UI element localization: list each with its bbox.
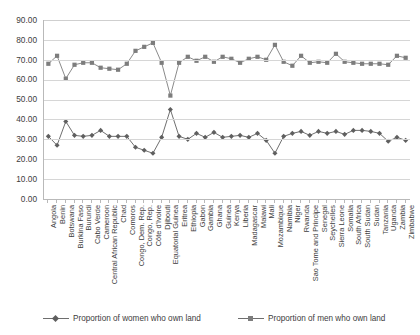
data-point[interactable] <box>333 129 338 134</box>
x-axis-tick <box>47 200 48 203</box>
data-point[interactable] <box>81 61 85 65</box>
y-axis-tick-label: 80.00 <box>16 36 37 44</box>
x-axis-tick-label: Tanzania <box>382 205 389 235</box>
data-point[interactable] <box>203 55 207 59</box>
x-axis-tick-label: Liberia <box>242 205 249 227</box>
x-axis-tick-label: Malawi <box>260 205 267 228</box>
data-point[interactable] <box>386 63 390 67</box>
data-point[interactable] <box>168 107 173 112</box>
data-point[interactable] <box>368 129 373 134</box>
x-axis-tick-label: Guinea <box>225 205 232 229</box>
x-axis-tick-label: Zambia <box>399 205 406 230</box>
x-axis-tick <box>257 200 258 203</box>
data-point[interactable] <box>299 129 304 134</box>
data-point[interactable] <box>72 63 76 67</box>
data-point[interactable] <box>194 131 199 136</box>
data-point[interactable] <box>221 55 225 59</box>
data-point[interactable] <box>211 130 216 135</box>
x-axis-tick-label: South Africa <box>355 205 362 245</box>
data-point[interactable] <box>238 133 243 138</box>
x-axis-tick <box>222 200 223 203</box>
data-point[interactable] <box>142 45 146 49</box>
x-axis-tick <box>239 200 240 203</box>
data-point[interactable] <box>395 54 399 58</box>
data-point[interactable] <box>316 129 321 134</box>
x-axis-tick-label: Mali <box>268 205 275 219</box>
data-point[interactable] <box>116 68 120 72</box>
data-point[interactable] <box>307 133 312 138</box>
x-axis-tick <box>370 200 371 203</box>
data-point[interactable] <box>334 52 338 56</box>
data-point[interactable] <box>351 128 356 133</box>
x-axis-tick-label: Senegal <box>321 205 328 232</box>
x-axis-tick-label: Sao Tome and Principe <box>312 205 319 281</box>
data-point[interactable] <box>99 66 103 70</box>
data-point[interactable] <box>107 134 112 139</box>
x-axis-tick <box>318 200 319 203</box>
gridline <box>44 100 410 101</box>
data-point[interactable] <box>177 61 181 65</box>
x-axis-tick <box>387 200 388 203</box>
legend-item-men[interactable]: Proportion of men who own land <box>238 314 385 323</box>
x-axis-tick <box>196 200 197 203</box>
data-point[interactable] <box>160 61 164 65</box>
data-point[interactable] <box>325 131 330 136</box>
gridline <box>44 119 410 120</box>
data-point[interactable] <box>342 132 347 137</box>
data-point[interactable] <box>255 55 259 59</box>
x-axis-tick <box>274 200 275 203</box>
legend-item-women[interactable]: Proportion of women who own land <box>43 314 201 323</box>
data-point[interactable] <box>273 43 277 47</box>
chart-container: 0.0010.0020.0030.0040.0050.0060.0070.008… <box>0 0 420 335</box>
data-point[interactable] <box>281 134 286 139</box>
x-axis-tick <box>326 200 327 203</box>
gridline <box>44 80 410 81</box>
x-axis-tick-label: Zimbabwe <box>408 205 415 239</box>
x-axis-tick <box>396 200 397 203</box>
data-point[interactable] <box>72 133 77 138</box>
data-point[interactable] <box>308 61 312 65</box>
data-point[interactable] <box>46 62 50 66</box>
data-point[interactable] <box>299 54 303 58</box>
data-point[interactable] <box>116 134 121 139</box>
gridline <box>44 139 410 140</box>
data-point[interactable] <box>89 133 94 138</box>
data-point[interactable] <box>125 62 129 66</box>
data-point[interactable] <box>229 134 234 139</box>
data-point[interactable] <box>238 61 242 65</box>
data-point[interactable] <box>351 61 355 65</box>
data-point[interactable] <box>290 131 295 136</box>
data-point[interactable] <box>325 61 329 65</box>
x-axis-tick <box>91 200 92 203</box>
y-axis-tick-label: 40.00 <box>16 115 37 123</box>
data-point[interactable] <box>98 128 103 133</box>
x-axis-tick <box>152 200 153 203</box>
data-point[interactable] <box>151 41 155 45</box>
data-point[interactable] <box>55 54 59 58</box>
data-point[interactable] <box>133 49 137 53</box>
data-point[interactable] <box>272 151 277 156</box>
data-point[interactable] <box>90 61 94 65</box>
data-point[interactable] <box>186 55 190 59</box>
data-point[interactable] <box>290 64 294 68</box>
x-axis-tick <box>335 200 336 203</box>
data-point[interactable] <box>360 128 365 133</box>
data-point[interactable] <box>81 134 86 139</box>
x-axis-tick <box>108 200 109 203</box>
x-axis-tick-label: Uganda <box>390 205 397 231</box>
x-axis-tick-label: Eritrea <box>181 205 188 227</box>
x-axis-tick-label: Comoros <box>129 205 136 235</box>
y-axis-tick-label: 20.00 <box>16 155 37 163</box>
data-point[interactable] <box>168 93 172 97</box>
data-point[interactable] <box>142 148 147 153</box>
y-axis-tick-label: 60.00 <box>16 75 37 83</box>
data-point[interactable] <box>377 62 381 66</box>
data-point[interactable] <box>107 67 111 71</box>
data-point[interactable] <box>177 134 182 139</box>
series-men <box>46 41 407 98</box>
x-axis-tick <box>361 200 362 203</box>
data-point[interactable] <box>369 62 373 66</box>
legend-marker-square-icon <box>238 314 264 323</box>
data-point[interactable] <box>360 62 364 66</box>
data-point[interactable] <box>150 151 155 156</box>
